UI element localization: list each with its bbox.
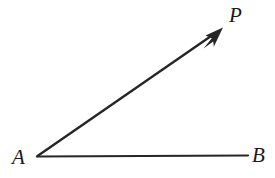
segment-ab: [37, 156, 248, 157]
ray-ap-shaft: [38, 34, 215, 156]
vertex-label-b: B: [252, 145, 265, 166]
angle-diagram-figure: A P B: [0, 0, 275, 178]
vertex-label-p: P: [229, 5, 242, 26]
vertex-label-a: A: [12, 147, 25, 168]
